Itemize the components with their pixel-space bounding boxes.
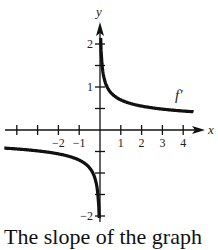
chart-plot: −2−1123421−2 x y f′ <box>0 0 218 222</box>
curve-label: f′ <box>175 87 183 103</box>
svg-text:4: 4 <box>180 136 186 150</box>
axes <box>5 22 205 222</box>
x-axis-label: x <box>207 122 214 137</box>
y-axis-label: y <box>94 4 102 19</box>
svg-text:2: 2 <box>139 136 145 150</box>
curve-left-branch <box>4 148 99 218</box>
svg-text:1: 1 <box>87 80 93 94</box>
svg-text:−2: −2 <box>80 209 93 222</box>
svg-text:2: 2 <box>87 37 93 51</box>
caption-text: The slope of the graph <box>4 224 202 250</box>
svg-text:−1: −1 <box>73 136 86 150</box>
svg-text:−2: −2 <box>52 136 65 150</box>
svg-text:3: 3 <box>159 136 165 150</box>
svg-text:1: 1 <box>118 136 124 150</box>
